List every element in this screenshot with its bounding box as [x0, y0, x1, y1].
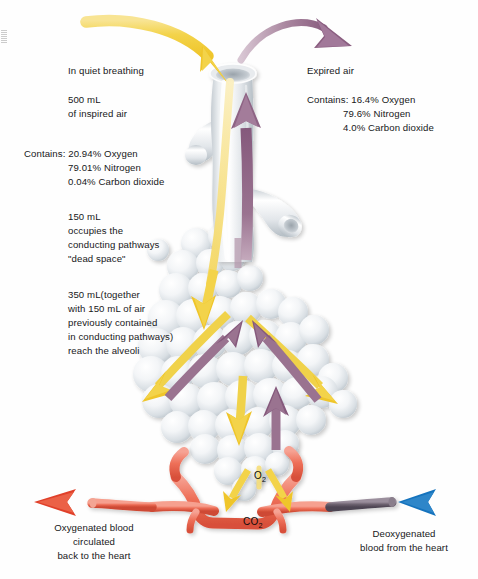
- alveolar-volume-line1: 350 mL(together: [68, 288, 140, 302]
- oxygenated-blood-arrow: [34, 489, 97, 516]
- expired-composition-nitrogen: 79.6% Nitrogen: [343, 107, 411, 121]
- deoxygenated-blood-line2: blood from the heart: [336, 541, 472, 555]
- expired-air-arrow: [241, 18, 352, 60]
- alveolar-volume-line3: previously contained: [68, 316, 157, 330]
- inspired-composition-nitrogen: 79.01% Nitrogen: [68, 161, 141, 175]
- oxygenated-blood-line1: Oxygenated blood: [24, 521, 164, 535]
- dead-space-line2: occupies the: [68, 224, 123, 238]
- expired-composition-carbon-dioxide: 4.0% Carbon dioxide: [343, 121, 434, 135]
- carbon-dioxide-label-text: CO: [243, 516, 258, 527]
- inspired-composition-oxygen: Contains: 20.94% Oxygen: [24, 147, 138, 161]
- inspired-volume-value: 500 mL: [68, 93, 101, 107]
- oxygen-label-subscript: 2: [262, 475, 266, 484]
- expired-air-heading: Expired air: [307, 64, 354, 78]
- dead-space-label: "dead space": [68, 252, 126, 266]
- alveoli-cluster: [133, 223, 357, 501]
- alveolar-volume-line5: reach the alveoli: [68, 344, 140, 358]
- inspired-composition-carbon-dioxide: 0.04% Carbon dioxide: [68, 175, 164, 189]
- alveolar-volume-line4: in conducting pathways): [68, 330, 173, 344]
- dead-space-volume: 150 mL: [68, 210, 101, 224]
- expired-composition-oxygen: Contains: 16.4% Oxygen: [307, 93, 415, 107]
- oxygenated-blood-line3: back to the heart: [24, 549, 164, 563]
- oxygenated-blood-line2: circulated: [24, 535, 164, 549]
- dead-space-line3: conducting pathways: [68, 238, 160, 252]
- oxygen-label: O2: [254, 470, 266, 481]
- carbon-dioxide-label-subscript: 2: [258, 521, 262, 530]
- alveolar-volume-line2: with 150 mL of air: [68, 302, 145, 316]
- deoxygenated-blood-line1: Deoxygenated: [336, 527, 472, 541]
- oxygen-label-text: O: [254, 470, 262, 481]
- inspired-air-heading: In quiet breathing: [68, 64, 144, 78]
- respiratory-gas-exchange-figure: In quiet breathing 500 mL of inspired ai…: [0, 0, 478, 579]
- carbon-dioxide-label: CO2: [243, 516, 263, 527]
- inspired-volume-caption: of inspired air: [68, 107, 127, 121]
- deoxygenated-blood-arrow: [398, 489, 462, 516]
